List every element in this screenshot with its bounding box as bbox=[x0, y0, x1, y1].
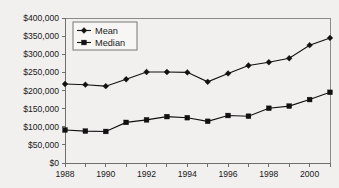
data-point-mean bbox=[123, 76, 129, 82]
legend-marker-median bbox=[82, 40, 87, 45]
legend-label-mean: Mean bbox=[95, 26, 118, 36]
x-tick-label: 1992 bbox=[137, 169, 156, 179]
data-point-median bbox=[307, 97, 312, 102]
y-tick-label: $100,000 bbox=[23, 122, 59, 132]
data-point-mean bbox=[205, 79, 211, 85]
legend-label-median: Median bbox=[95, 38, 125, 48]
data-point-mean bbox=[164, 69, 170, 75]
data-point-mean bbox=[286, 55, 292, 61]
y-tick-label: $250,000 bbox=[23, 67, 59, 77]
data-point-mean bbox=[327, 35, 333, 41]
chart-container: $0$50,000$100,000$150,000$200,000$250,00… bbox=[0, 0, 339, 188]
data-point-mean bbox=[246, 63, 252, 69]
data-point-median bbox=[144, 117, 149, 122]
y-tick-label: $200,000 bbox=[23, 86, 59, 96]
data-point-mean bbox=[307, 42, 313, 48]
data-point-median bbox=[266, 106, 271, 111]
data-point-median bbox=[165, 114, 170, 119]
data-point-median bbox=[124, 120, 129, 125]
data-point-mean bbox=[184, 69, 190, 75]
data-point-mean bbox=[62, 81, 68, 87]
data-point-median bbox=[103, 129, 108, 134]
y-tick-label: $0 bbox=[49, 158, 59, 168]
data-point-mean bbox=[225, 71, 231, 77]
line-chart: $0$50,000$100,000$150,000$200,000$250,00… bbox=[0, 0, 339, 188]
x-tick-label: 1988 bbox=[55, 169, 74, 179]
y-tick-label: $300,000 bbox=[23, 49, 59, 59]
series-line-median bbox=[65, 92, 330, 131]
data-point-mean bbox=[266, 59, 272, 65]
data-point-mean bbox=[103, 83, 109, 89]
data-point-median bbox=[205, 119, 210, 124]
x-tick-label: 1994 bbox=[178, 169, 197, 179]
y-tick-label: $350,000 bbox=[23, 31, 59, 41]
y-tick-label: $400,000 bbox=[23, 13, 59, 23]
x-tick-label: 1998 bbox=[259, 169, 278, 179]
data-point-mean bbox=[144, 69, 150, 75]
y-tick-label: $150,000 bbox=[23, 104, 59, 114]
data-point-median bbox=[226, 113, 231, 118]
x-tick-label: 2000 bbox=[300, 169, 319, 179]
data-point-median bbox=[185, 115, 190, 120]
data-point-median bbox=[328, 90, 333, 95]
data-point-median bbox=[63, 128, 68, 133]
y-tick-label: $50,000 bbox=[28, 140, 59, 150]
x-tick-label: 1996 bbox=[219, 169, 238, 179]
data-point-median bbox=[287, 104, 292, 109]
x-tick-label: 1990 bbox=[96, 169, 115, 179]
data-point-mean bbox=[82, 82, 88, 88]
data-point-median bbox=[83, 129, 88, 134]
data-point-median bbox=[246, 114, 251, 119]
